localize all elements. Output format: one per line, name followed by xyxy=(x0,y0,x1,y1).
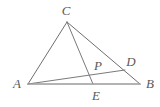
segment-CA xyxy=(28,22,67,84)
vertex-label-D: D xyxy=(126,55,135,68)
vertex-label-B: B xyxy=(146,77,154,90)
vertex-label-E: E xyxy=(92,89,100,102)
segment-AD xyxy=(28,70,125,84)
vertex-label-C: C xyxy=(62,4,71,17)
vertex-label-A: A xyxy=(13,77,21,90)
geometry-canvas xyxy=(0,0,160,107)
vertex-label-P: P xyxy=(94,59,102,72)
geometry-figure: C A B D E P xyxy=(0,0,160,107)
